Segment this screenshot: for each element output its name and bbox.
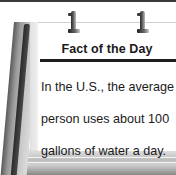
top-border	[0, 0, 176, 2]
binder-ring-icon	[68, 11, 78, 35]
card-title: Fact of the Day	[38, 42, 176, 56]
binder-ring-icon	[137, 11, 147, 35]
fact-line: In the U.S., the average	[41, 79, 176, 95]
fact-line: gallons of water a day.	[41, 143, 176, 159]
fact-text: In the U.S., the average person uses abo…	[41, 63, 176, 175]
fact-line: person uses about 100	[41, 111, 176, 127]
title-divider	[40, 59, 176, 62]
